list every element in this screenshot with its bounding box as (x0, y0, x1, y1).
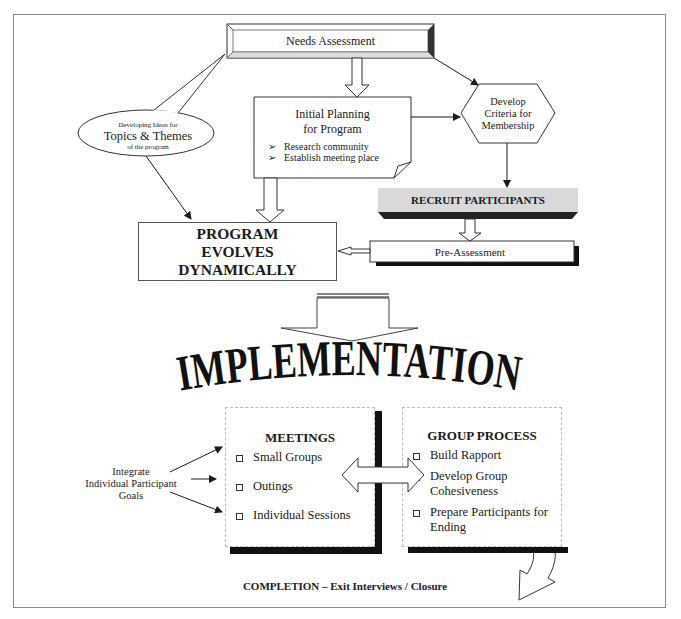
needs-assessment-box: Needs Assessment (227, 24, 434, 58)
svg-text:IMPLEMENTATION: IMPLEMENTATION (173, 330, 525, 400)
arrow-bullet-icon: ➢ (268, 152, 284, 163)
initial-planning-list: ➢Research community ➢Establish meeting p… (254, 141, 411, 163)
pre-assessment-label: Pre-Assessment (370, 241, 570, 263)
square-bullet-icon (236, 513, 243, 520)
square-bullet-icon (236, 455, 243, 462)
hollow-arrow-left-icon (338, 247, 370, 255)
list-item: Individual Sessions (226, 508, 374, 523)
list-item: Prepare Participants for Ending (403, 505, 561, 535)
square-bullet-icon (413, 510, 420, 517)
double-arrow-icon (340, 455, 426, 495)
hollow-arrow-down-icon (345, 58, 369, 97)
program-evolves-box: PROGRAM EVOLVES DYNAMICALLY (138, 222, 337, 281)
group-process-box: GROUP PROCESS Build Rapport Develop Grou… (402, 407, 562, 547)
square-bullet-icon (236, 484, 243, 491)
list-item: Develop Group Cohesiveness (403, 469, 561, 499)
needs-assessment-label: Needs Assessment (286, 34, 375, 49)
hollow-arrow-down-icon (256, 178, 284, 222)
group-process-shadow (408, 547, 568, 553)
completion-label: COMPLETION – Exit Interviews / Closure (200, 580, 490, 592)
recruit-participants-label: RECRUIT PARTICIPANTS (378, 188, 578, 212)
list-item: ➢Research community (268, 141, 411, 152)
arrow-bullet-icon: ➢ (268, 141, 284, 152)
integrate-goals-label: Integrate Individual Participant Goals (72, 466, 190, 510)
initial-planning-title: Initial Planning for Program (254, 107, 411, 137)
meetings-title: MEETINGS (226, 430, 374, 446)
list-item: ➢Establish meeting place (268, 152, 411, 163)
implementation-heading: IMPLEMENTATION (170, 330, 530, 400)
hollow-arrow-down-icon (459, 219, 481, 241)
develop-criteria-label: Develop Criteria for Membership (460, 84, 556, 144)
group-process-list: Build Rapport Develop Group Cohesiveness… (403, 448, 561, 535)
topics-themes-label: Developing Ideas for Topics & Themes of … (78, 111, 218, 161)
list-item: Build Rapport (403, 448, 561, 463)
initial-planning-box: Initial Planning for Program ➢Research c… (254, 97, 411, 178)
meetings-shadow (230, 547, 382, 554)
group-process-title: GROUP PROCESS (403, 428, 561, 444)
